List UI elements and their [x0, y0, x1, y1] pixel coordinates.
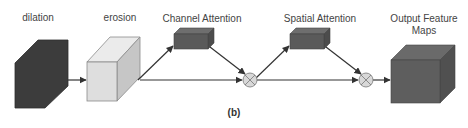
output-cube-front	[391, 60, 440, 103]
edge-channel-mult1	[210, 47, 245, 74]
output-block	[391, 45, 455, 103]
erosion-label: erosion	[104, 12, 137, 23]
multiply-operator-1	[243, 73, 257, 87]
channel-attention-block	[174, 28, 214, 49]
dilation-label: dilation	[22, 12, 54, 23]
channel-attention-front	[174, 34, 208, 49]
edge-spatial-mult2	[326, 47, 361, 74]
erosion-block	[87, 37, 140, 101]
output-label-line2: Maps	[412, 25, 436, 36]
dilation-cube	[15, 40, 68, 108]
edge-mult1-spatial	[256, 46, 289, 78]
attention-diagram: dilation erosion Channel Attention Spati…	[0, 0, 468, 128]
spatial-attention-top	[290, 28, 330, 34]
erosion-cube-front	[87, 62, 117, 101]
spatial-attention-block	[290, 28, 330, 49]
channel-attention-label: Channel Attention	[163, 13, 242, 24]
channel-attention-top	[174, 28, 214, 34]
spatial-attention-front	[290, 34, 324, 49]
spatial-attention-label: Spatial Attention	[284, 13, 356, 24]
output-label-line1: Output Feature	[390, 13, 458, 24]
edge-erosion-channel	[138, 46, 173, 80]
figure-caption: (b)	[228, 107, 241, 118]
dilation-block	[15, 40, 68, 108]
multiply-operator-2	[359, 73, 373, 87]
